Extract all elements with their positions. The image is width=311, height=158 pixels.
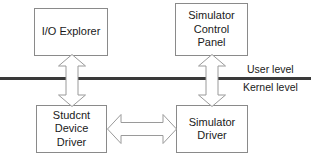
node-student-device-driver[interactable]: Studcnt Device Driver [36, 105, 107, 153]
architecture-diagram: I/O Explorer Simulator Control Panel Stu… [0, 0, 311, 158]
double-arrow-student-device-driver-simulator-driver-icon [107, 114, 177, 144]
kernel-level-label: Kernel level [243, 81, 298, 93]
node-simulator-control-panel[interactable]: Simulator Control Panel [175, 3, 248, 56]
node-io-explorer-label: I/O Explorer [42, 25, 101, 39]
node-simulator-driver-label: Simulator Driver [189, 116, 235, 143]
double-arrow-io-explorer-student-device-driver-icon [58, 54, 86, 107]
double-arrow-simulator-control-panel-simulator-driver-icon [198, 54, 226, 107]
user-kernel-boundary-line [0, 77, 311, 80]
node-io-explorer[interactable]: I/O Explorer [34, 8, 108, 56]
user-level-label: User level [247, 63, 294, 75]
node-student-device-driver-label: Studcnt Device Driver [53, 109, 90, 150]
node-simulator-control-panel-label: Simulator Control Panel [188, 9, 234, 50]
node-simulator-driver[interactable]: Simulator Driver [176, 105, 248, 153]
